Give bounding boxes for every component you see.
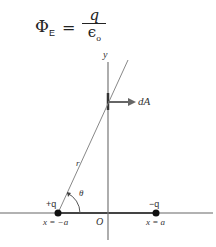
radius-line: [58, 60, 128, 213]
positive-charge-position: x = −a: [43, 217, 68, 227]
positive-charge-label: +q: [46, 199, 56, 209]
y-axis-label: y: [103, 49, 107, 60]
distance-label: r: [76, 158, 80, 168]
negative-charge-position: x = a: [146, 217, 165, 227]
negative-charge-label: −q: [149, 199, 159, 209]
origin-label: O: [96, 216, 103, 227]
area-vector-label: dA: [138, 95, 150, 107]
dipole-diagram: [0, 0, 216, 247]
negative-charge-dot: [153, 210, 160, 217]
arrow-head-icon: [128, 98, 136, 106]
angle-label: θ: [79, 188, 83, 198]
positive-charge-dot: [55, 210, 62, 217]
